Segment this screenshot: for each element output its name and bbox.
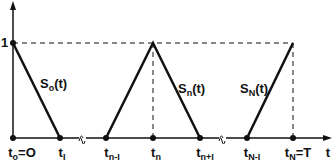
tick-suffix: =T — [296, 145, 312, 160]
tick-label-tN-minus-1: tN-I — [244, 146, 260, 162]
tick-subscript: n — [155, 152, 161, 162]
tick-label-tN: tN=T — [285, 146, 311, 162]
function-label-sN: SN(t) — [240, 82, 268, 98]
tick-suffix: =O — [18, 145, 36, 160]
axis-break-icon — [219, 136, 225, 144]
tick-label-tn-plus-1: tn+I — [196, 146, 214, 162]
function-label-s0: So(t) — [40, 77, 67, 93]
tick-subscript: n+I — [201, 152, 214, 162]
tick-subscript: N-I — [248, 152, 260, 162]
x-axis-label: t — [326, 146, 330, 159]
tick-subscript: n-I — [109, 152, 120, 162]
tick-label-t0: to=O — [8, 146, 36, 162]
x-axis-arrow-icon — [323, 135, 332, 141]
function-argument: (t) — [192, 81, 205, 96]
tick-subscript: I — [63, 152, 66, 162]
tick-label-t1: tI — [59, 146, 66, 162]
function-base: S — [178, 81, 187, 96]
y-axis — [10, 1, 16, 140]
tick-label-tn: tn — [151, 146, 161, 162]
function-base: S — [240, 81, 249, 96]
function-base: S — [40, 76, 49, 91]
axis-break-icon — [79, 136, 85, 144]
y-axis-arrow-icon — [10, 1, 16, 10]
y-level-label: 1 — [1, 36, 8, 49]
tick-label-tn-minus-1: tn-I — [104, 146, 119, 162]
function-argument: (t) — [255, 81, 268, 96]
function-label-sn: Sn(t) — [178, 82, 205, 98]
function-argument: (t) — [54, 76, 67, 91]
